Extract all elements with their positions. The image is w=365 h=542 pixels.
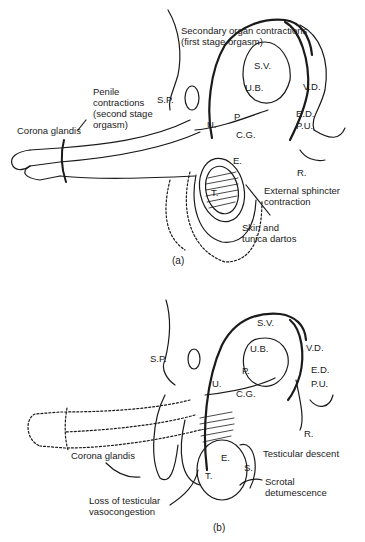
label-cg-a: C.G. xyxy=(236,129,256,140)
label-corona-glandis-a: Corona glandis xyxy=(17,125,81,136)
label-sp-b: S.P. xyxy=(150,353,167,364)
label-testicular-descent: Testicular descent xyxy=(263,448,339,459)
label-loss-of-vasocongestion: Loss of testicular vasocongestion xyxy=(89,495,160,517)
label-u-b: U. xyxy=(212,378,222,389)
label-ub-b: U.B. xyxy=(250,343,268,354)
label-secondary-organ-contractions: Secondary organ contractions (first stag… xyxy=(181,25,307,47)
label-vd-b: V.D. xyxy=(306,342,324,353)
label-pu-a: P.U. xyxy=(296,120,313,131)
label-penile-contractions: Penile contractions (second stage orgasm… xyxy=(93,86,153,130)
label-s-b: S. xyxy=(244,462,253,473)
label-sv-b: S.V. xyxy=(257,317,274,328)
label-scrotal-detumescence: Scrotal detumescence xyxy=(265,476,327,498)
label-p-b: P. xyxy=(242,365,250,376)
label-ed-b: E.D. xyxy=(311,364,329,375)
label-r-b: R. xyxy=(304,428,314,439)
caption-a: (a) xyxy=(172,255,184,266)
label-u-a: U. xyxy=(207,119,217,130)
label-ub-a: U.B. xyxy=(245,82,263,93)
label-cg-b: C.G. xyxy=(236,388,256,399)
label-t-b: T. xyxy=(205,470,212,481)
label-sv-a: S.V. xyxy=(254,60,271,71)
label-vd-a: V.D. xyxy=(303,81,321,92)
label-corona-glandis-b: Corona glandis xyxy=(71,450,135,461)
label-e-b: E. xyxy=(221,452,230,463)
caption-b: (b) xyxy=(213,522,225,533)
label-ed-a: E.D. xyxy=(296,108,314,119)
label-e-a: E. xyxy=(233,155,242,166)
label-sp-a: S.P. xyxy=(157,94,174,105)
label-external-sphincter: External sphincter contraction xyxy=(264,185,340,207)
label-t-a: T. xyxy=(211,187,218,198)
label-pu-b: P.U. xyxy=(311,378,328,389)
label-skin-tunica-dartos: Skin and tunica dartos xyxy=(242,222,296,244)
label-r-a: R. xyxy=(297,167,307,178)
label-p-a: P. xyxy=(234,111,242,122)
